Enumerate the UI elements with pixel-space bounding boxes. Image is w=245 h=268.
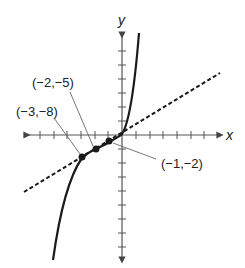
point-neg1-neg2 xyxy=(106,138,113,145)
label-point-neg2-neg5: (−2,−5) xyxy=(32,75,74,90)
x-axis-label: x xyxy=(225,127,234,143)
y-axis-label: y xyxy=(117,12,126,28)
leader-line-p3 xyxy=(113,143,156,159)
graph: y x (−3,−8) (−2,−5) (−1,−2) xyxy=(0,0,245,268)
label-point-neg1-neg2: (−1,−2) xyxy=(161,156,203,171)
point-neg3-neg8 xyxy=(79,154,86,161)
label-point-neg3-neg8: (−3,−8) xyxy=(16,104,58,119)
leader-line-p1 xyxy=(54,118,80,154)
point-neg2-neg5 xyxy=(93,146,100,153)
